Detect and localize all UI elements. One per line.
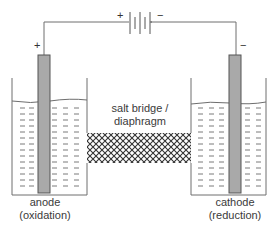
battery-minus-sign: − — [157, 10, 163, 21]
cathode-electrode — [229, 55, 241, 193]
salt-bridge-label-line1: salt bridge / — [108, 102, 172, 115]
anode-label: anode (oxidation) — [10, 196, 80, 222]
salt-bridge-label: salt bridge / diaphragm — [108, 102, 172, 128]
anode-name: anode — [10, 196, 80, 209]
anode-electrode — [38, 55, 50, 193]
salt-bridge — [87, 133, 191, 163]
cathode-label: cathode (reduction) — [200, 196, 270, 222]
battery-plus-sign: + — [117, 10, 123, 21]
cathode-name: cathode — [200, 196, 270, 209]
battery-icon — [130, 12, 152, 34]
cathode-sign: − — [240, 40, 246, 51]
anode-sign: + — [34, 40, 40, 51]
electrolytic-cell-diagram: + − + − salt bridge / diaphragm anode (o… — [0, 0, 280, 225]
cathode-process: (reduction) — [200, 209, 270, 222]
salt-bridge-label-line2: diaphragm — [108, 115, 172, 128]
anode-process: (oxidation) — [10, 209, 80, 222]
